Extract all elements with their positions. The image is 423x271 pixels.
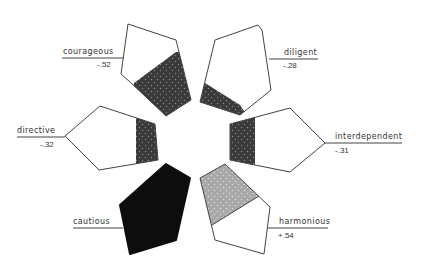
directive-pentagon (17, 100, 166, 175)
interdependent-label: interdependent (335, 132, 402, 141)
cautious-pentagon (73, 164, 190, 254)
harmonious-value: +.54 (278, 231, 294, 240)
cautious-label: cautious (73, 217, 110, 226)
directive-value: -.32 (40, 140, 54, 149)
harmonious-pentagon (195, 160, 328, 254)
directive-label: directive (17, 126, 55, 135)
harmonious-label: harmonious (279, 217, 330, 226)
courageous-label: courageous (63, 47, 114, 56)
diligent-value: -.28 (283, 61, 297, 70)
courageous-pentagon (62, 24, 200, 120)
interdependent-value: -.31 (335, 146, 349, 155)
diligent-pentagon (195, 25, 318, 120)
diligent-label: diligent (284, 48, 317, 57)
courageous-value: -.52 (97, 60, 111, 69)
